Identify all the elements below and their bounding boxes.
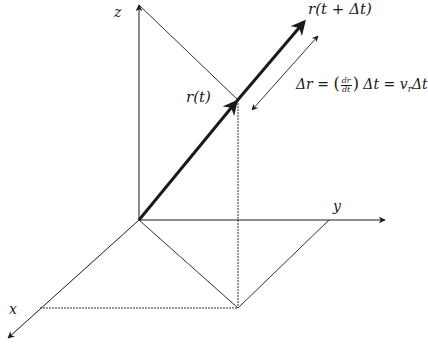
r-t-label: r(t) [186, 90, 211, 105]
origin-to-foot-line [139, 220, 238, 308]
z-to-point-line [139, 5, 238, 100]
eq-paren-open: ( [333, 74, 339, 93]
r-t-dt-label: r(t + Δt) [308, 2, 372, 17]
y-axis-label: y [333, 199, 341, 213]
vector-r-t [139, 102, 236, 220]
delta-r-equation: Δr = (drdt) Δt = vrΔt [296, 76, 428, 94]
eq-rhs-2: Δt [412, 76, 428, 92]
x-axis-label: x [9, 302, 17, 316]
z-axis-label: z [114, 5, 121, 19]
x-axis [8, 220, 139, 338]
eq-lhs: Δr = [296, 76, 333, 92]
eq-rhs-1: Δt = v [359, 76, 408, 92]
foot-to-y-line [238, 220, 329, 308]
eq-fraction: drdt [341, 77, 352, 94]
eq-frac-den: dt [341, 86, 352, 94]
